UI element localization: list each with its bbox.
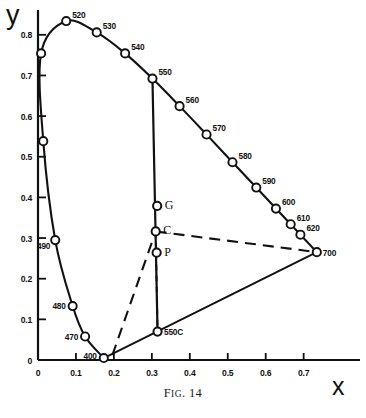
chart-curves xyxy=(39,20,316,358)
x-tick-label: 0.2 xyxy=(108,368,120,378)
locus-marker-590 xyxy=(252,183,260,191)
data-point-labels: 4004704804905205305405505605705805906006… xyxy=(37,10,337,361)
point-marker-C xyxy=(152,227,160,235)
point-label-G: G xyxy=(165,198,174,212)
x-tick-label: 0.1 xyxy=(70,368,82,378)
point-label-P: P xyxy=(164,245,171,259)
locus-label-620: 620 xyxy=(306,223,320,233)
locus-marker-470 xyxy=(81,332,89,340)
purple-line xyxy=(104,252,317,358)
y-tick-label: 0.4 xyxy=(21,193,33,203)
y-tick-label: 0.8 xyxy=(21,30,33,40)
y-tick-label: 0 xyxy=(27,356,32,366)
locus-marker-700 xyxy=(313,248,321,256)
figure-caption: FIG. 14 xyxy=(0,386,366,401)
spectral-locus-curve xyxy=(39,20,316,358)
c-to-700-dashed-line xyxy=(156,231,317,252)
locus-label-530: 530 xyxy=(103,21,117,31)
x-tick-label: 0 xyxy=(36,368,41,378)
caption-f: F xyxy=(164,386,171,400)
y-tick-label: 0.1 xyxy=(21,315,33,325)
locus-label-470: 470 xyxy=(65,332,79,342)
y-tick-label: 0.5 xyxy=(21,152,33,162)
locus-label-610: 610 xyxy=(297,213,311,223)
locus-marker-530 xyxy=(93,28,101,36)
locus-label-590: 590 xyxy=(262,176,276,186)
locus-marker-600 xyxy=(272,204,280,212)
point-label-C: C xyxy=(163,223,171,237)
x-tick-label: 0.4 xyxy=(184,368,196,378)
locus-marker-400 xyxy=(100,354,108,362)
data-point-markers xyxy=(37,17,321,362)
locus-marker-560 xyxy=(175,102,183,110)
locus-label-570: 570 xyxy=(213,123,227,133)
point-marker-P xyxy=(153,249,161,257)
caption-number: . 14 xyxy=(182,386,202,400)
y-tick-label: 0.3 xyxy=(21,234,33,244)
locus-label-400: 400 xyxy=(84,351,98,361)
chart-canvas: 4004704804905205305405505605705805906006… xyxy=(0,0,366,418)
locus-label-700: 700 xyxy=(323,248,337,258)
locus-label-490: 490 xyxy=(37,241,51,251)
locus-label-580: 580 xyxy=(238,151,252,161)
locus-marker-unlabeled xyxy=(37,49,45,57)
locus-marker-620 xyxy=(296,231,304,239)
locus-marker-580 xyxy=(228,158,236,166)
y-tick-label: 0.2 xyxy=(21,274,33,284)
locus-label-560: 560 xyxy=(186,95,200,105)
y-tick-labels: 00.10.20.30.40.50.60.70.8 xyxy=(21,30,33,365)
x-tick-label: 0.6 xyxy=(260,368,272,378)
locus-marker-490 xyxy=(51,236,59,244)
locus-marker-520 xyxy=(62,17,70,25)
point-marker-G xyxy=(153,202,161,210)
locus-label-480: 480 xyxy=(52,301,66,311)
locus-label-550: 550 xyxy=(158,67,172,77)
locus-marker-550 xyxy=(148,74,156,82)
locus-label-520: 520 xyxy=(72,10,86,20)
point-marker-550C xyxy=(153,327,161,335)
locus-marker-540 xyxy=(121,49,129,57)
caption-ig: IG xyxy=(171,389,182,399)
locus-marker-570 xyxy=(202,130,210,138)
dominant-wavelength-dashed-line xyxy=(112,231,155,355)
x-tick-label: 0.7 xyxy=(298,368,310,378)
locus-marker-480 xyxy=(69,302,77,310)
locus-marker-unlabeled xyxy=(39,137,47,145)
x-tick-label: 0.3 xyxy=(146,368,158,378)
point-label-550C: 550C xyxy=(164,327,183,337)
x-tick-labels: 00.10.20.30.40.50.60.7 xyxy=(36,368,310,378)
axis-group xyxy=(38,10,360,360)
x-tick-label: 0.5 xyxy=(222,368,234,378)
y-tick-label: 0.6 xyxy=(21,112,33,122)
locus-label-600: 600 xyxy=(282,197,296,207)
chromaticity-diagram-figure: y x 400470480490520530540550560570580590… xyxy=(0,0,366,418)
locus-label-540: 540 xyxy=(131,42,145,52)
y-tick-label: 0.7 xyxy=(21,71,33,81)
locus-marker-610 xyxy=(287,220,295,228)
